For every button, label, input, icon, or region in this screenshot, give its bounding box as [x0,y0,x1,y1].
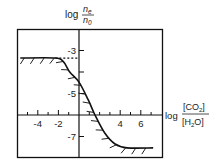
x-tick-label: -2 [54,118,62,129]
hatch [142,148,146,154]
y-label-log: log [65,9,78,20]
y-tick-label: -3 [68,45,76,56]
x-tick-label: -4 [34,118,42,129]
chart: -4-246 -3-5-7 log ne n0 log [CO2] [H2O] [0,0,222,167]
x-ticks: -4-246 [28,110,152,129]
y-tick-label: -7 [68,131,76,142]
hatch [30,58,34,64]
hatch [68,77,75,78]
y-label-denominator: n0 [83,15,92,26]
x-label-denominator: [H2O] [182,117,204,128]
plot-frame [18,30,163,158]
hatch [121,148,126,154]
y-axis-label: log ne n0 [65,4,94,26]
hatch [20,58,24,64]
hatch [56,61,63,62]
x-label-log: log [165,110,178,121]
hatch [50,58,54,64]
hatch [110,145,117,148]
y-label-numerator: ne [83,4,92,15]
x-axis-label: log [CO2] [H2O] [165,102,209,128]
x-tick-label: 6 [138,118,143,129]
x-label-numerator: [CO2] [183,102,205,113]
hatch [102,138,109,139]
hatch [40,58,44,64]
hatch [132,148,136,154]
y-tick-label: -5 [68,88,76,99]
x-tick-label: 4 [118,118,123,129]
